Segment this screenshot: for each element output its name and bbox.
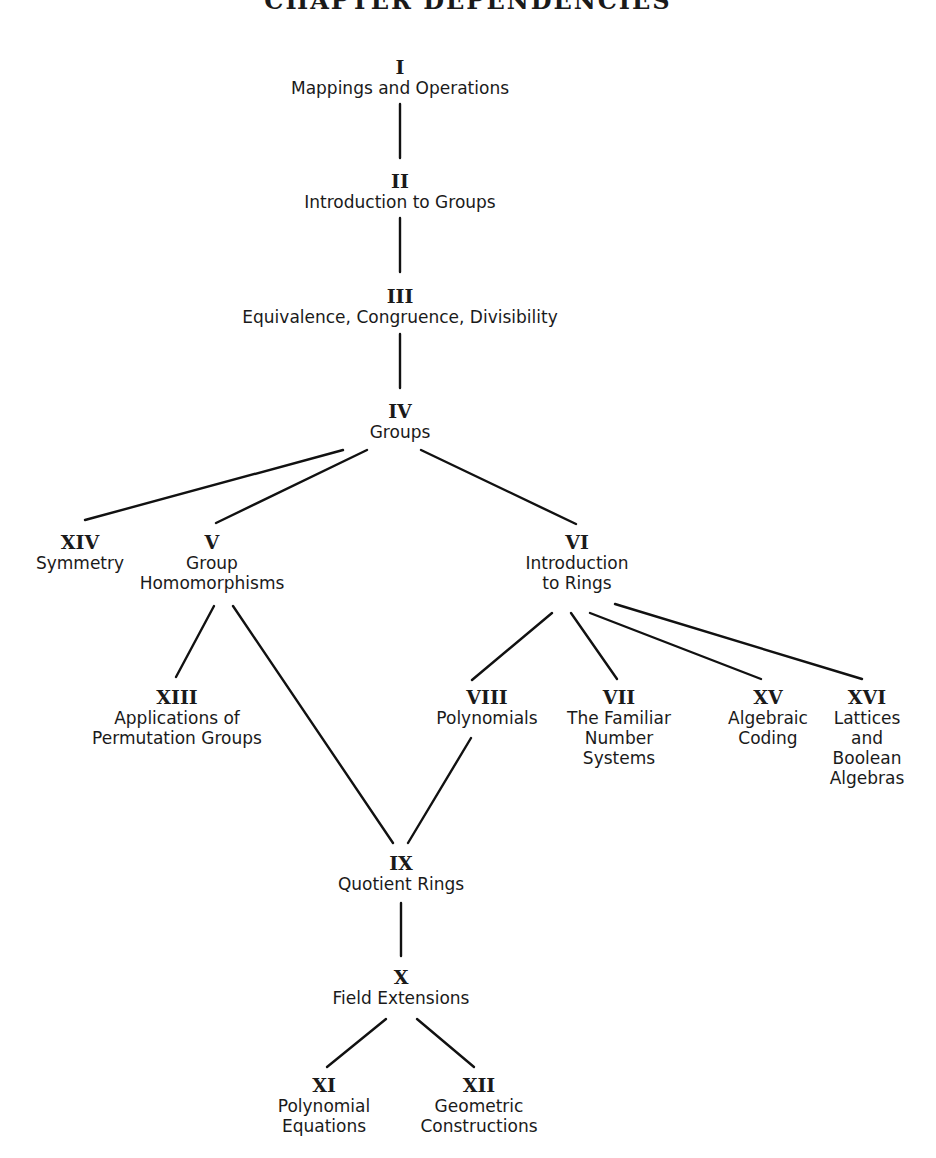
chapter-title: Field Extensions (333, 988, 470, 1008)
chapter-numeral: XV (728, 686, 808, 708)
chapter-numeral: XIII (92, 686, 262, 708)
chapter-numeral: II (304, 170, 495, 192)
chapter-numeral: III (242, 285, 557, 307)
node-chapter-XII: XII Geometric Constructions (420, 1074, 537, 1136)
node-chapter-X: X Field Extensions (333, 966, 470, 1008)
node-chapter-XIV: XIV Symmetry (36, 531, 124, 573)
edge-VI-XVI (615, 604, 862, 679)
node-chapter-V: V Group Homomorphisms (140, 531, 285, 593)
chapter-title: Lattices and Boolean Algebras (830, 708, 905, 788)
edge-V-XIII (176, 606, 214, 677)
edge-VIII-IX (408, 738, 471, 843)
chapter-numeral: IX (338, 852, 464, 874)
node-chapter-III: III Equivalence, Congruence, Divisibilit… (242, 285, 557, 327)
chapter-title: Algebraic Coding (728, 708, 808, 748)
node-chapter-XVI: XVI Lattices and Boolean Algebras (830, 686, 905, 788)
chapter-numeral: XI (278, 1074, 370, 1096)
edge-IV-XIV (85, 450, 343, 520)
chapter-numeral: VII (567, 686, 671, 708)
chapter-title: Polynomials (436, 708, 537, 728)
edge-VI-VII (571, 613, 617, 679)
chapter-title: Mappings and Operations (291, 78, 509, 98)
chapter-title: Equivalence, Congruence, Divisibility (242, 307, 557, 327)
chapter-title: Quotient Rings (338, 874, 464, 894)
chapter-numeral: XIV (36, 531, 124, 553)
edge-X-XI (327, 1019, 386, 1067)
chapter-numeral: VIII (436, 686, 537, 708)
edge-X-XII (417, 1019, 474, 1067)
node-chapter-XI: XI Polynomial Equations (278, 1074, 370, 1136)
chapter-title: Group Homomorphisms (140, 553, 285, 593)
node-chapter-I: I Mappings and Operations (291, 56, 509, 98)
edge-IV-VI (421, 450, 576, 524)
chapter-numeral: X (333, 966, 470, 988)
chapter-numeral: XVI (830, 686, 905, 708)
chapter-title: Introduction to Groups (304, 192, 495, 212)
chapter-numeral: VI (526, 531, 629, 553)
node-chapter-IX: IX Quotient Rings (338, 852, 464, 894)
node-chapter-VIII: VIII Polynomials (436, 686, 537, 728)
chapter-title: Geometric Constructions (420, 1096, 537, 1136)
node-chapter-XIII: XIII Applications of Permutation Groups (92, 686, 262, 748)
chapter-numeral: V (140, 531, 285, 553)
node-chapter-XV: XV Algebraic Coding (728, 686, 808, 748)
node-chapter-II: II Introduction to Groups (304, 170, 495, 212)
edge-IV-V (216, 450, 367, 523)
chapter-title: The Familiar Number Systems (567, 708, 671, 768)
chapter-title: Symmetry (36, 553, 124, 573)
chapter-title: Polynomial Equations (278, 1096, 370, 1136)
node-chapter-IV: IV Groups (370, 400, 431, 442)
edge-VI-VIII (472, 613, 552, 680)
node-chapter-VII: VII The Familiar Number Systems (567, 686, 671, 768)
chapter-title: Groups (370, 422, 431, 442)
chapter-numeral: IV (370, 400, 431, 422)
chapter-title: Introduction to Rings (526, 553, 629, 593)
chapter-title: Applications of Permutation Groups (92, 708, 262, 748)
chapter-numeral: I (291, 56, 509, 78)
node-chapter-VI: VI Introduction to Rings (526, 531, 629, 593)
chapter-numeral: XII (420, 1074, 537, 1096)
